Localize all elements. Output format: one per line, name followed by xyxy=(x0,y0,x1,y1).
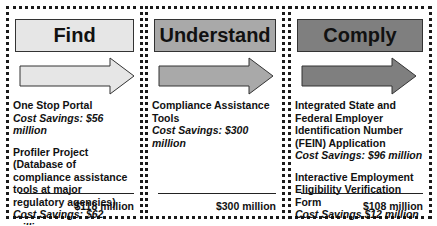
panel-understand: Understand Compliance Assistance Tools C… xyxy=(145,6,285,219)
arrow-right-icon xyxy=(14,57,136,95)
item: Interactive Employment Eligibility Verif… xyxy=(295,171,425,221)
divider xyxy=(301,193,423,194)
item-name: Integrated State and Federal Employer Id… xyxy=(295,99,425,149)
item-name: Compliance Assistance Tools xyxy=(152,99,278,124)
item-savings: Cost Savings: $300 million xyxy=(152,124,278,149)
item: Profiler Project (Database of compliance… xyxy=(13,146,136,226)
content-understand: Compliance Assistance Tools Cost Savings… xyxy=(152,99,278,158)
header-understand: Understand xyxy=(154,19,276,52)
total: $118 million xyxy=(74,200,134,212)
panel-comply: Comply Integrated State and Federal Empl… xyxy=(288,6,432,219)
total: $300 million xyxy=(216,200,276,212)
header-comply: Comply xyxy=(297,19,423,52)
item-name: Profiler Project (Database of compliance… xyxy=(13,146,136,209)
divider xyxy=(19,193,134,194)
total: $108 million xyxy=(363,200,423,212)
item-savings: Cost Savings: $96 million xyxy=(295,149,425,162)
item-name: One Stop Portal xyxy=(13,99,136,112)
header-find: Find xyxy=(15,19,134,52)
arrow-right-icon xyxy=(153,57,275,95)
item-savings: Cost Savings: $56 million xyxy=(13,112,136,137)
item: Compliance Assistance Tools Cost Savings… xyxy=(152,99,278,149)
arrow-right-icon xyxy=(296,57,418,95)
panel-find: Find One Stop Portal Cost Savings: $56 m… xyxy=(6,6,143,219)
item: Integrated State and Federal Employer Id… xyxy=(295,99,425,162)
item: One Stop Portal Cost Savings: $56 millio… xyxy=(13,99,136,137)
divider xyxy=(158,193,276,194)
